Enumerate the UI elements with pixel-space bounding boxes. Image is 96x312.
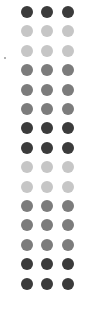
dot-mid [62,103,74,115]
dot-light [21,25,33,37]
dot-mid [41,84,53,96]
dot-mid [62,200,74,212]
dot-dark [21,142,33,154]
dot-mid [41,219,53,231]
dot-grid [0,0,96,312]
dot-dark [41,278,53,290]
dot-mid [41,64,53,76]
dot-mid [41,239,53,251]
dot-mid [21,239,33,251]
dot-dark [41,142,53,154]
dot-dark [41,6,53,18]
dot-dark [41,258,53,270]
dot-dark [41,122,53,134]
dot-dark [21,6,33,18]
dot-light [21,181,33,193]
dot-light [62,161,74,173]
dot-light [41,25,53,37]
dot-light [41,161,53,173]
dot-dark [62,122,74,134]
dot-mid [21,219,33,231]
dot-mid [62,239,74,251]
dot-mid [21,64,33,76]
dot-mid [62,84,74,96]
dot-mid [62,64,74,76]
dot-light [62,45,74,57]
dot-mid [21,103,33,115]
dot-mid [21,200,33,212]
dot-light [41,45,53,57]
dot-dark [62,258,74,270]
dot-light [21,161,33,173]
dot-light [21,45,33,57]
dot-dark [21,278,33,290]
dot-mid [41,200,53,212]
dot-mid [21,84,33,96]
dot-mid [41,103,53,115]
dot-light [41,181,53,193]
dot-light [62,25,74,37]
dot-dark [21,122,33,134]
dot-dark [62,6,74,18]
dot-dark [21,258,33,270]
stray-speck [4,57,6,59]
dot-dark [62,278,74,290]
dot-light [62,181,74,193]
dot-dark [62,142,74,154]
dot-mid [62,219,74,231]
